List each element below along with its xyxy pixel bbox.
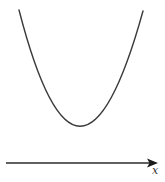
diagram-canvas: x [0, 0, 165, 182]
parabola-curve [19, 10, 143, 126]
diagram-svg [0, 0, 165, 182]
x-axis-label: x [152, 165, 158, 176]
